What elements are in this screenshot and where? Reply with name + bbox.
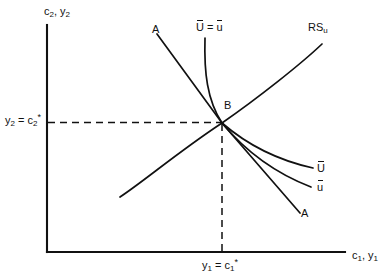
- economics-diagram: c2, y2 c1, y1 y2 = c2* y1 = c1* A A U = …: [0, 0, 392, 279]
- curve-rs-u-label: RSu: [308, 22, 328, 35]
- curve-a-top-label: A: [152, 24, 159, 35]
- curve-a: [157, 34, 300, 213]
- curve-u-big-label: U: [317, 163, 325, 174]
- y-axis-label: c2, y2: [44, 6, 70, 19]
- curves: [120, 34, 322, 213]
- curve-ubar-equals-ubar-label: U = u: [196, 22, 223, 33]
- curve-u-big: [222, 123, 313, 168]
- x-axis-label: c1, y1: [352, 250, 378, 263]
- curve-a-bottom-label: A: [301, 208, 308, 219]
- diagram-canvas: [0, 0, 392, 279]
- curve-u-small-label: u: [317, 182, 323, 193]
- y-axis-tick-label: y2 = c2*: [5, 113, 41, 128]
- x-axis-tick-label: y1 = c1*: [202, 258, 238, 273]
- point-b-label: B: [224, 100, 231, 111]
